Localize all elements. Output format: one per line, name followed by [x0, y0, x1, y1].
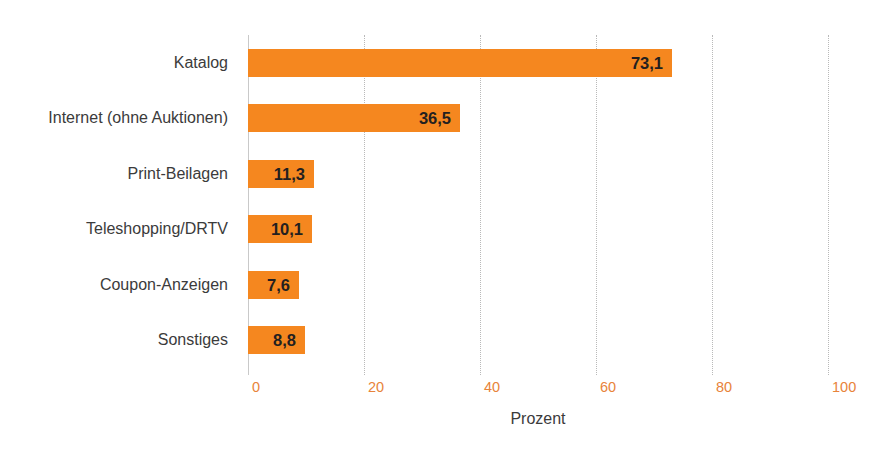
category-label: Print-Beilagen	[0, 146, 238, 202]
bar-print-beilagen[interactable]: 11,3	[248, 160, 314, 188]
category-label: Internet (ohne Auktionen)	[0, 91, 238, 147]
bar-row: 7,6	[248, 257, 828, 313]
category-label: Coupon-Anzeigen	[0, 257, 238, 313]
bar-row: 8,8	[248, 313, 828, 369]
bar-series: 73,1 36,5 11,3 10,1 7,6	[248, 35, 828, 375]
bar-chart: Katalog Internet (ohne Auktionen) Print-…	[0, 0, 885, 455]
bar-value-label: 10,1	[271, 221, 303, 238]
category-label: Teleshopping/DRTV	[0, 202, 238, 258]
plot-area: 73,1 36,5 11,3 10,1 7,6	[248, 35, 828, 375]
bar-row: 36,5	[248, 91, 828, 147]
x-axis-title: Prozent	[248, 410, 828, 428]
bar-katalog[interactable]: 73,1	[248, 49, 672, 77]
category-label: Katalog	[0, 35, 238, 91]
xtick-label-0: 0	[252, 379, 260, 395]
bar-internet[interactable]: 36,5	[248, 104, 460, 132]
category-label: Sonstiges	[0, 313, 238, 369]
bar-sonstiges[interactable]: 8,8	[248, 326, 305, 354]
bar-value-label: 73,1	[631, 55, 663, 72]
bar-row: 73,1	[248, 35, 828, 91]
bar-value-label: 7,6	[267, 277, 290, 294]
category-axis: Katalog Internet (ohne Auktionen) Print-…	[0, 35, 238, 375]
bar-value-label: 8,8	[273, 332, 296, 349]
bar-row: 10,1	[248, 202, 828, 258]
xtick-label-60: 60	[600, 379, 616, 395]
bar-value-label: 11,3	[274, 166, 305, 183]
xtick-label-100: 100	[832, 379, 856, 395]
bar-row: 11,3	[248, 146, 828, 202]
gridline-100	[828, 35, 829, 375]
bar-coupon-anzeigen[interactable]: 7,6	[248, 271, 299, 299]
x-axis	[248, 375, 829, 376]
bar-value-label: 36,5	[419, 110, 451, 127]
xtick-label-40: 40	[484, 379, 500, 395]
bar-teleshopping-drtv[interactable]: 10,1	[248, 215, 312, 243]
xtick-label-20: 20	[368, 379, 384, 395]
xtick-label-80: 80	[716, 379, 732, 395]
